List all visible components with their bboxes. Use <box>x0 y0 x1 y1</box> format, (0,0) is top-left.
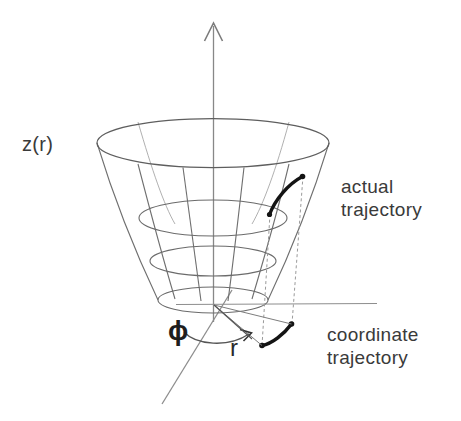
actual-trajectory-end-point <box>300 174 306 180</box>
actual-trajectory-curve <box>267 174 305 217</box>
projection-line-outer <box>292 176 303 324</box>
r-symbol-label: r <box>230 336 238 359</box>
projection-lines <box>262 176 303 346</box>
coordinate-trajectory-curve <box>259 321 294 348</box>
phi-symbol-label: ϕ <box>168 320 189 343</box>
z-of-r-label: z(r) <box>22 133 53 156</box>
phi-arc <box>184 330 252 344</box>
phi-arc-arrowhead-icon <box>240 330 252 342</box>
radial-guides <box>214 305 292 346</box>
meridian-back-1 <box>138 122 175 224</box>
x-axis-line <box>176 304 377 305</box>
projection-line-inner <box>262 214 270 346</box>
meridian-right-edge <box>268 143 329 300</box>
meridian-4 <box>252 164 289 299</box>
actual-trajectory-label: actual trajectory <box>341 175 422 221</box>
meridian-1 <box>138 164 175 299</box>
actual-trajectory-start-point <box>267 212 272 217</box>
meridian-left-edge <box>97 143 158 300</box>
coordinate-trajectory-label: coordinate trajectory <box>327 323 419 369</box>
